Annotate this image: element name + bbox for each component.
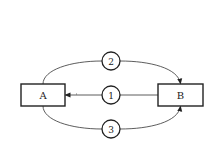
edge-a-to-b-via-2 — [43, 61, 102, 84]
circle-2-label: 2 — [108, 57, 114, 67]
node-b[interactable]: B — [158, 84, 203, 106]
node-a[interactable]: A — [21, 84, 65, 106]
node-b-label: B — [177, 90, 184, 101]
node-a-label: A — [38, 90, 47, 101]
node-circle-3[interactable]: 3 — [102, 120, 120, 138]
edge-2-to-b — [120, 61, 181, 84]
circle-1-label: 1 — [108, 91, 114, 101]
edge-3-to-b — [120, 107, 181, 130]
node-circle-2[interactable]: 2 — [102, 52, 120, 70]
flow-diagram: A B 2 1 3 — [0, 0, 218, 149]
edge-a-to-b-via-3 — [43, 106, 102, 129]
circle-3-label: 3 — [108, 125, 114, 135]
node-circle-1[interactable]: 1 — [102, 86, 120, 104]
